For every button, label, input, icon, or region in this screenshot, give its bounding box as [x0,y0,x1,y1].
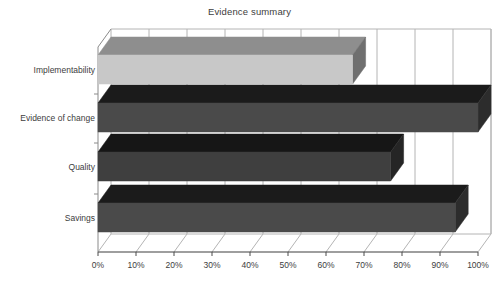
x-axis-label: 40% [241,260,258,270]
bar-top-face [98,37,366,55]
x-axis-label: 60% [317,260,334,270]
gridline-depth-connector [136,234,149,252]
x-axis-label: 100% [467,260,489,270]
bar-front-face [98,55,353,84]
bar-front-face [98,152,391,181]
gridline-depth-connector [288,234,301,252]
gridline-depth-connector [326,234,339,252]
gridline-depth-connector [174,234,187,252]
x-axis-label: 30% [203,260,220,270]
x-axis-label: 80% [393,260,410,270]
gridline-depth-connector [364,234,377,252]
bar-quality[interactable] [98,134,404,181]
x-axis-label: 0% [92,260,104,270]
y-axis-labels: ImplementabilityEvidence of changeQualit… [0,0,95,283]
x-axis-label: 50% [279,260,296,270]
x-axis-label: 10% [127,260,144,270]
chart-container: Evidence summary ImplementabilityEvidenc… [0,0,499,283]
bar-top-face [98,134,404,152]
y-axis-label: Quality [3,162,95,172]
gridline-depth-connector [212,234,225,252]
bar-top-face [98,85,491,103]
bar-front-face [98,103,478,132]
gridline-depth-connector [402,234,415,252]
gridline-depth-connector [478,234,491,252]
bar-evidence-of-change[interactable] [98,85,491,132]
gridline-depth-connector [98,234,111,252]
bar-savings[interactable] [98,185,468,232]
gridline-depth-connector [250,234,263,252]
x-axis-label: 70% [355,260,372,270]
x-axis-label: 90% [431,260,448,270]
bar-front-face [98,203,455,232]
bar-implementability[interactable] [98,37,366,84]
y-axis-label: Evidence of change [3,113,95,123]
gridline-depth-connector [440,234,453,252]
y-axis-label: Savings [3,213,95,223]
bars-group [98,37,491,232]
bar-top-face [98,185,468,203]
x-axis-label: 20% [165,260,182,270]
y-axis-label: Implementability [3,65,95,75]
